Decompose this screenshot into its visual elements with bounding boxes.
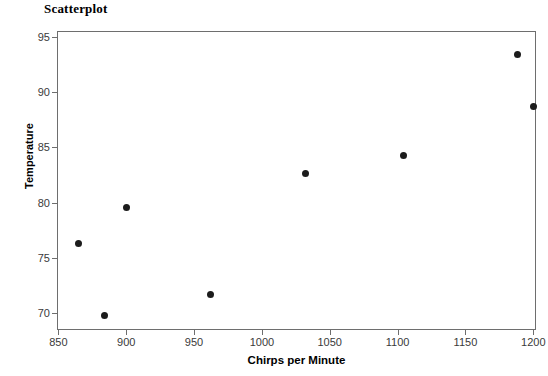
x-tick-mark <box>330 330 331 335</box>
y-tick-mark <box>52 203 57 204</box>
y-tick-mark <box>52 37 57 38</box>
x-tick-label: 1050 <box>308 336 352 348</box>
x-tick-mark <box>533 330 534 335</box>
x-tick-label: 1100 <box>376 336 420 348</box>
x-tick-mark <box>58 330 59 335</box>
x-tick-mark <box>262 330 263 335</box>
x-axis-title: Chirps per Minute <box>57 354 536 366</box>
x-tick-label: 1000 <box>240 336 284 348</box>
x-tick-label: 1150 <box>443 336 487 348</box>
x-tick-mark <box>194 330 195 335</box>
y-tick-mark <box>52 258 57 259</box>
y-tick-label: 70 <box>24 307 50 319</box>
y-tick-mark <box>52 92 57 93</box>
plot-area <box>57 31 536 330</box>
y-axis-title: Temperature <box>23 86 35 226</box>
x-tick-label: 850 <box>36 336 80 348</box>
x-tick-label: 950 <box>172 336 216 348</box>
y-tick-label: 75 <box>24 252 50 264</box>
x-tick-mark <box>465 330 466 335</box>
scatterplot-figure: Scatterplot 707580859095 850900950100010… <box>0 0 548 376</box>
y-tick-mark <box>52 313 57 314</box>
x-tick-mark <box>126 330 127 335</box>
x-tick-label: 900 <box>104 336 148 348</box>
chart-title: Scatterplot <box>44 1 108 17</box>
x-tick-label: 1200 <box>511 336 548 348</box>
y-tick-label: 95 <box>24 31 50 43</box>
x-axis-tick-labels: 85090095010001050110011501200 <box>57 336 536 352</box>
x-tick-mark <box>398 330 399 335</box>
y-tick-mark <box>52 147 57 148</box>
